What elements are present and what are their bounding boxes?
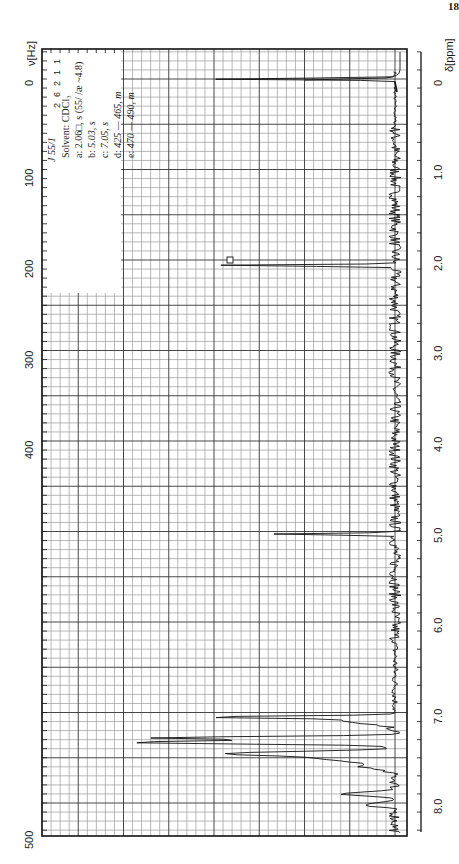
ppm-tick-8: 8.0: [432, 799, 444, 814]
hz-tick-0: 0: [23, 80, 35, 86]
hz-tick-300: 300: [23, 351, 35, 369]
hz-tick-200: 200: [23, 260, 35, 278]
legend-entry-d: d: 425 — 465, m: [111, 62, 124, 158]
ppm-tick-1: 1.0: [432, 165, 444, 180]
integral-label-4: 6: [52, 92, 62, 97]
ppm-tick-0: 0: [432, 80, 444, 86]
legend-entry-c: c: 7.05, s: [98, 62, 111, 158]
ppm-axis-label: δ[ppm]: [443, 38, 455, 72]
sample-id: J 55/1: [46, 137, 57, 162]
ppm-tick-4: 4.0: [432, 437, 444, 452]
legend: Solvent: CDCl₃ a: 2.06□, s (55/ /æ ~4.8)…: [59, 62, 137, 158]
ppm-tick-6: 6.0: [432, 618, 444, 633]
peak-a-marker-box: [227, 257, 233, 263]
hz-tick-500: 500: [23, 831, 35, 849]
hz-tick-400: 400: [23, 441, 35, 459]
legend-entry-b: b: 5.03, s: [85, 62, 98, 158]
integral-label-1: 1: [52, 59, 62, 64]
hz-tick-100: 100: [23, 169, 35, 187]
ppm-tick-2: 2.0: [432, 256, 444, 271]
ppm-axis: [417, 52, 421, 832]
spectrum-trace: [137, 72, 401, 833]
integral-label-3: 2: [52, 81, 62, 86]
hz-axis-label: ν[Hz]: [25, 41, 37, 66]
ppm-tick-3: 3.0: [432, 346, 444, 361]
integral-label-5: 2: [52, 103, 62, 108]
legend-entry-e: e: 470 — 490, m: [124, 62, 137, 158]
legend-entry-a: a: 2.06□, s (55/ /æ ~4.8): [72, 62, 85, 158]
integral-label-2: 1: [52, 70, 62, 75]
legend-solvent: Solvent: CDCl₃: [59, 62, 72, 158]
ppm-tick-5: 5.0: [432, 528, 444, 543]
ppm-tick-7: 7.0: [432, 709, 444, 724]
